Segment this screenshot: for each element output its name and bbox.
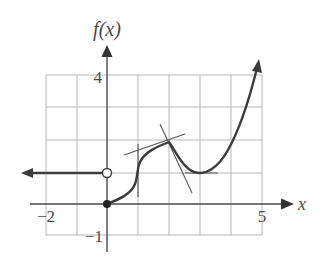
filled-dot-point — [103, 200, 111, 208]
grid — [46, 75, 262, 235]
y-axis-label: f(x) — [93, 18, 121, 41]
x-tick-label-neg2: −2 — [37, 207, 55, 226]
x-axis-arrow-icon — [281, 199, 294, 210]
y-axis-arrow-icon — [102, 45, 113, 57]
left-ray-arrow-icon — [21, 168, 33, 178]
function-graph: f(x) x 4 −1 −2 5 — [0, 0, 322, 269]
main-curve — [107, 72, 256, 204]
left-ray — [21, 168, 103, 178]
tangent-right-x2 — [160, 124, 192, 193]
curve-arrow-icon — [252, 59, 262, 73]
y-tick-label-neg1: −1 — [85, 227, 103, 246]
open-circle-point — [103, 169, 112, 178]
x-axis-label: x — [297, 194, 306, 214]
y-tick-label-4: 4 — [94, 68, 103, 87]
x-axis — [30, 199, 294, 210]
y-axis — [102, 45, 113, 252]
x-tick-label-5: 5 — [258, 207, 267, 226]
